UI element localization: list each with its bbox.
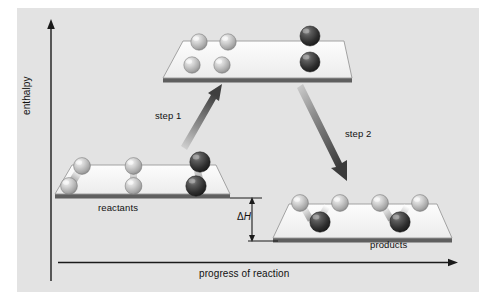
atom-light-r1b (61, 178, 78, 195)
atom-light-intermediate-4 (214, 57, 230, 73)
y-axis-arrowhead-icon (47, 19, 55, 29)
step2-label: step 2 (345, 128, 371, 139)
step2-arrow-shape (297, 84, 347, 181)
atom-dark-r3a (190, 152, 210, 172)
platform-products-edge (273, 238, 452, 243)
atom-dark-intermediate-1 (300, 26, 320, 46)
platform-intermediate-edge (163, 78, 352, 83)
step1-label: step 1 (155, 110, 181, 121)
delta-h-delta-symbol: Δ (237, 211, 244, 222)
atom-dark-intermediate-2 (300, 52, 320, 72)
atom-dark-r3b (186, 176, 206, 196)
reactants-level-label: reactants (98, 202, 138, 213)
y-axis-label: enthalpy (21, 76, 32, 115)
atom-light-r1a (74, 158, 91, 175)
atom-light-intermediate-2 (220, 34, 236, 50)
enthalpy-diagram-figure: enthalpy progress of reaction reactants … (0, 0, 493, 299)
atom-light-p1b (332, 195, 349, 212)
platform-reactants (55, 152, 230, 199)
step1-arrow (181, 84, 222, 150)
step1-arrow-shape (181, 84, 222, 150)
atom-light-intermediate-3 (184, 57, 200, 73)
diagram-canvas (0, 0, 493, 299)
atom-dark-p2-oxygen (390, 212, 410, 232)
platform-products (273, 195, 452, 243)
platform-reactants-edge (55, 194, 230, 199)
x-axis-arrowhead-icon (448, 259, 458, 267)
platform-intermediate (163, 26, 352, 83)
atom-light-intermediate-1 (191, 34, 207, 50)
atom-dark-p1-oxygen (310, 212, 330, 232)
delta-h-label: ΔH (237, 211, 251, 222)
atom-light-r2b (125, 178, 142, 195)
atom-light-p1a (292, 195, 309, 212)
delta-h-h-symbol: H (244, 211, 251, 222)
x-axis-label: progress of reaction (199, 268, 289, 279)
atom-light-p2b (412, 195, 429, 212)
step2-arrow (297, 84, 347, 181)
products-level-label: products (370, 239, 407, 250)
atom-light-p2a (372, 195, 389, 212)
atom-light-r2a (125, 158, 142, 175)
